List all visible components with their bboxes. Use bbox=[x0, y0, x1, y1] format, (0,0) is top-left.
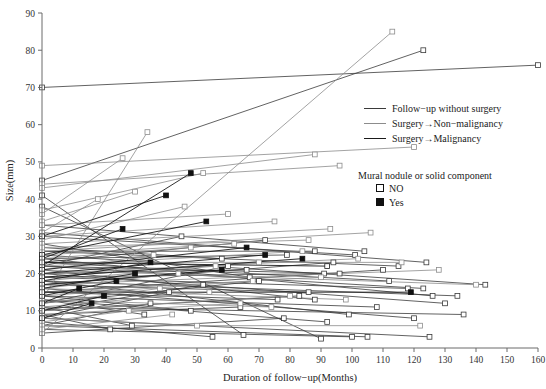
y-tick-label: 10 bbox=[26, 306, 36, 316]
data-point-marker-no bbox=[241, 333, 246, 338]
data-point-marker-no bbox=[347, 312, 352, 317]
data-point-marker-no bbox=[210, 334, 215, 339]
legend-series-row-1: Surgery→Non−malignancy bbox=[364, 116, 503, 131]
data-point-marker-no bbox=[325, 320, 330, 325]
marker-legend-heading: Mural nodule or solid component bbox=[358, 170, 492, 181]
marker-legend: Mural nodule or solid component NOYes bbox=[358, 170, 492, 209]
x-tick-label: 150 bbox=[500, 355, 515, 365]
y-tick-label: 40 bbox=[26, 195, 36, 205]
y-axis-title: Size(mm) bbox=[4, 159, 16, 201]
data-point-marker-no bbox=[275, 297, 280, 302]
data-point-marker-no bbox=[387, 279, 392, 284]
data-point-marker-yes bbox=[77, 286, 82, 291]
data-point-marker-no bbox=[120, 156, 125, 161]
legend-series-row-0: Follow−up without surgery bbox=[364, 101, 503, 116]
data-point-marker-no bbox=[362, 249, 367, 254]
data-point-marker-yes bbox=[120, 226, 125, 231]
legend-marker-row-1: Yes bbox=[376, 195, 492, 209]
data-point-marker-no bbox=[219, 256, 224, 261]
data-point-marker-no bbox=[368, 230, 373, 235]
data-point-marker-no bbox=[536, 63, 541, 68]
data-point-marker-no bbox=[328, 226, 333, 231]
data-point-marker-no bbox=[356, 256, 361, 261]
data-point-marker-no bbox=[145, 130, 150, 135]
data-point-marker-no bbox=[343, 297, 348, 302]
x-tick-label: 90 bbox=[316, 355, 326, 365]
data-point-marker-no bbox=[170, 312, 175, 317]
data-point-marker-yes bbox=[164, 193, 169, 198]
data-point-marker-no bbox=[188, 308, 193, 313]
data-point-marker-no bbox=[126, 308, 131, 313]
x-axis-title: Duration of follow−up(Months) bbox=[223, 372, 358, 384]
data-point-marker-no bbox=[250, 279, 255, 284]
data-point-marker-no bbox=[312, 152, 317, 157]
data-point-marker-yes bbox=[300, 256, 305, 261]
data-point-marker-no bbox=[157, 286, 162, 291]
data-point-marker-no bbox=[151, 253, 156, 258]
data-point-marker-no bbox=[207, 290, 212, 295]
x-tick-label: 0 bbox=[40, 355, 45, 365]
data-point-marker-no bbox=[319, 336, 324, 341]
y-tick-label: 50 bbox=[26, 157, 36, 167]
x-tick-label: 60 bbox=[223, 355, 233, 365]
legend-series-label: Surgery→Malignancy bbox=[392, 133, 481, 144]
data-point-marker-no bbox=[365, 334, 370, 339]
legend-series-label: Surgery→Non−malignancy bbox=[392, 118, 503, 129]
legend-line-swatch-icon bbox=[364, 138, 386, 139]
data-point-marker-no bbox=[461, 312, 466, 317]
legend-marker-label: Yes bbox=[389, 197, 404, 208]
data-point-marker-no bbox=[213, 264, 218, 269]
data-point-marker-no bbox=[421, 48, 426, 53]
data-point-marker-no bbox=[281, 316, 286, 321]
data-point-marker-yes bbox=[409, 290, 414, 295]
data-point-marker-no bbox=[176, 271, 181, 276]
data-point-marker-no bbox=[427, 334, 432, 339]
data-point-marker-no bbox=[272, 219, 277, 224]
data-point-marker-no bbox=[455, 293, 460, 298]
data-point-marker-no bbox=[269, 305, 274, 310]
series-legend: Follow−up without surgerySurgery→Non−mal… bbox=[364, 101, 503, 146]
data-point-marker-no bbox=[257, 260, 262, 265]
y-tick-label: 20 bbox=[26, 269, 36, 279]
x-tick-label: 40 bbox=[161, 355, 171, 365]
data-point-marker-yes bbox=[148, 260, 153, 265]
data-point-marker-no bbox=[412, 316, 417, 321]
x-tick-label: 100 bbox=[345, 355, 360, 365]
data-point-marker-no bbox=[201, 171, 206, 176]
x-tick-label: 70 bbox=[254, 355, 264, 365]
data-point-marker-no bbox=[148, 301, 153, 306]
x-tick-label: 140 bbox=[469, 355, 484, 365]
filled-square-marker-icon bbox=[376, 198, 384, 206]
data-point-marker-no bbox=[306, 290, 311, 295]
x-tick-label: 110 bbox=[376, 355, 390, 365]
data-point-marker-no bbox=[312, 297, 317, 302]
data-point-marker-no bbox=[133, 189, 138, 194]
data-point-marker-no bbox=[436, 267, 441, 272]
data-point-marker-no bbox=[201, 282, 206, 287]
data-point-marker-yes bbox=[219, 267, 224, 272]
y-tick-label: 80 bbox=[26, 46, 36, 56]
legend-series-row-2: Surgery→Malignancy bbox=[364, 131, 503, 146]
data-point-marker-no bbox=[319, 275, 324, 280]
data-point-marker-no bbox=[108, 327, 113, 332]
legend-line-swatch-icon bbox=[364, 108, 386, 109]
legend-marker-row-0: NO bbox=[376, 181, 492, 195]
data-point-marker-no bbox=[418, 323, 423, 328]
data-point-marker-no bbox=[195, 323, 200, 328]
y-tick-label: 60 bbox=[26, 120, 36, 130]
chart-root: 0102030405060708090100110120130140150160… bbox=[0, 0, 546, 389]
data-point-marker-no bbox=[399, 260, 404, 265]
data-point-marker-no bbox=[226, 212, 231, 217]
data-point-marker-yes bbox=[204, 219, 209, 224]
x-tick-label: 130 bbox=[438, 355, 453, 365]
data-point-marker-yes bbox=[89, 301, 94, 306]
x-tick-label: 10 bbox=[68, 355, 78, 365]
data-point-marker-no bbox=[312, 249, 317, 254]
data-point-marker-no bbox=[325, 264, 330, 269]
data-point-marker-no bbox=[443, 301, 448, 306]
data-point-marker-no bbox=[374, 305, 379, 310]
data-point-marker-no bbox=[421, 286, 426, 291]
y-tick-label: 0 bbox=[30, 344, 35, 354]
data-point-marker-no bbox=[337, 163, 342, 168]
data-point-marker-no bbox=[263, 238, 268, 243]
